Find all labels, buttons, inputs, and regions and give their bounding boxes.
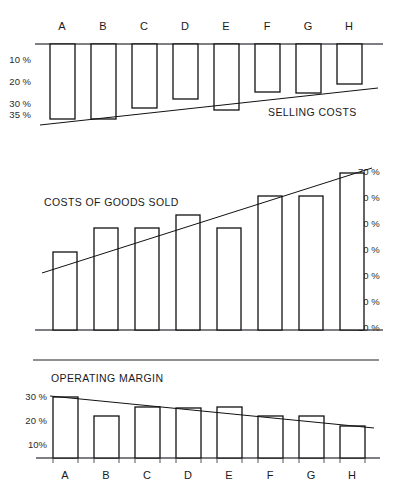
panel3-cat-label-c: C	[143, 469, 151, 481]
panel3-cat-label-e: E	[225, 469, 232, 481]
panel3-ytick-30: 30 %	[25, 391, 47, 402]
panel3-cat-label-d: D	[184, 469, 192, 481]
panel3-cat-label-b: B	[102, 469, 109, 481]
panel3-y-tick-labels: 30 % 20 % 10%	[25, 391, 47, 450]
panel1-title: SELLING COSTS	[268, 106, 357, 118]
panel1-bar-h	[337, 44, 362, 84]
panel1-bar-d	[173, 44, 198, 99]
panel3-cat-label-f: F	[267, 469, 274, 481]
panel1-ytick-35: 35 %	[9, 109, 31, 120]
panel1-bar-f	[255, 44, 280, 92]
panel1-bar-e	[214, 44, 239, 110]
panel1-cat-label-f: F	[264, 20, 271, 32]
panel1-cat-label-a: A	[58, 20, 66, 32]
panel1-cat-label-e: E	[222, 20, 229, 32]
panel1-cat-label-h: H	[345, 20, 353, 32]
panel3-cat-label-g: G	[307, 469, 316, 481]
panel3-bar-c	[135, 407, 160, 458]
panel3-ytick-10: 10%	[28, 439, 48, 450]
panel1-cat-label-g: G	[304, 20, 313, 32]
panel1-ytick-20: 20 %	[9, 76, 31, 87]
panel1-ytick-30: 30 %	[9, 98, 31, 109]
panel1-bar-a	[50, 44, 75, 119]
panel1-bar-c	[132, 44, 157, 108]
panel2-bar-h	[340, 173, 364, 330]
panel3-bar-h	[340, 426, 365, 458]
panel2-bar-d	[176, 215, 200, 330]
three-panel-bar-chart-figure: A B C D E F G H 10 % 20 % 30 % 35 %	[0, 0, 405, 489]
panel3-ytick-20: 20 %	[25, 415, 47, 426]
panel1-cat-label-b: B	[99, 20, 106, 32]
panel3-cat-label-h: H	[348, 469, 356, 481]
panel2-bar-f	[258, 196, 282, 330]
panel3-bar-f	[258, 416, 283, 458]
panel1-bar-b	[91, 44, 116, 119]
panel3-title: OPERATING MARGIN	[51, 372, 163, 384]
panel1-cat-label-d: D	[181, 20, 189, 32]
panel3-bar-d	[176, 408, 201, 458]
panel1-cat-label-c: C	[140, 20, 148, 32]
panel2-bar-c	[135, 228, 159, 330]
panel2-bar-e	[217, 228, 241, 330]
panel2-title: COSTS OF GOODS SOLD	[44, 196, 179, 208]
panel2-bar-g	[299, 196, 323, 330]
panel3-bar-b	[94, 416, 119, 458]
panel2-bar-a	[53, 252, 77, 330]
panel1-ytick-10: 10 %	[9, 54, 31, 65]
panel1-bar-g	[296, 44, 321, 93]
panel3-bar-a	[53, 397, 78, 458]
panel3-cat-label-a: A	[61, 469, 69, 481]
panel2-bar-b	[94, 228, 118, 330]
